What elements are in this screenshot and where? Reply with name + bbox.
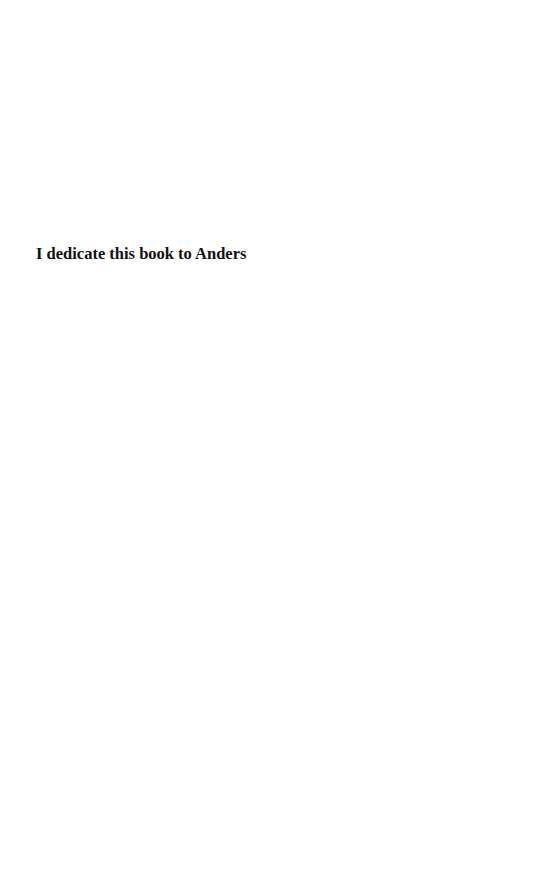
document-page: I dedicate this book to Anders [0, 0, 543, 884]
dedication-text: I dedicate this book to Anders [36, 244, 246, 264]
